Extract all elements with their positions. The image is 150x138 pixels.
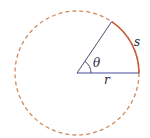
angle-marker [85, 61, 91, 73]
label-s: s [134, 35, 140, 49]
label-r: r [104, 73, 111, 87]
label-theta: θ [93, 56, 101, 70]
arc-length-diagram: s θ r [0, 0, 150, 138]
